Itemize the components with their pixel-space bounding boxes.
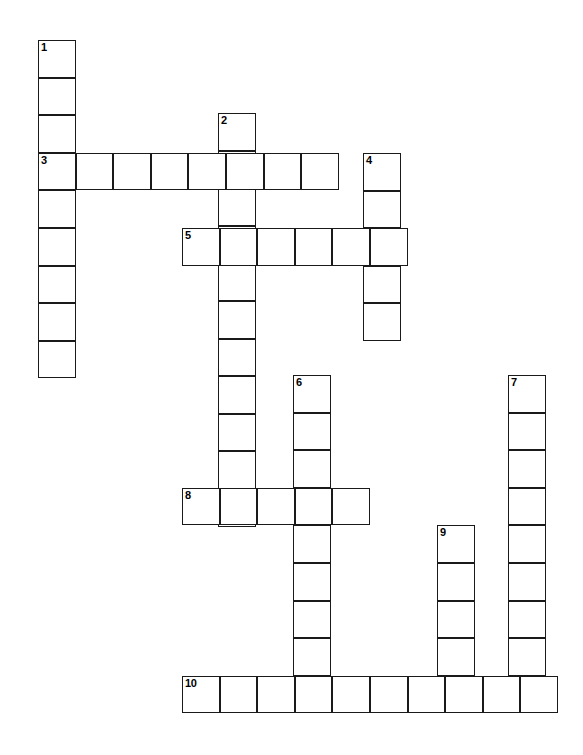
crossword-cell-start-2[interactable]: 2 — [218, 113, 256, 151]
crossword-cell-start-9[interactable]: 9 — [437, 525, 475, 563]
crossword-cell[interactable] — [218, 188, 256, 226]
crossword-cell-start-4[interactable]: 4 — [363, 153, 401, 191]
crossword-cell[interactable] — [76, 153, 114, 191]
crossword-cell-start-10[interactable]: 10 — [182, 676, 220, 714]
crossword-cell[interactable] — [293, 638, 331, 676]
crossword-cell[interactable] — [295, 676, 333, 714]
clue-number-10: 10 — [185, 677, 197, 689]
crossword-cell[interactable] — [218, 376, 256, 414]
crossword-cell[interactable] — [508, 450, 546, 488]
crossword-cell[interactable] — [370, 228, 408, 266]
crossword-cell-start-1[interactable]: 1 — [38, 40, 76, 78]
crossword-cell[interactable] — [445, 676, 483, 714]
crossword-cell[interactable] — [151, 153, 189, 191]
crossword-cell[interactable] — [437, 638, 475, 676]
crossword-cell[interactable] — [220, 488, 258, 526]
crossword-cell[interactable] — [38, 266, 76, 304]
crossword-cell[interactable] — [332, 676, 370, 714]
crossword-cell[interactable] — [293, 525, 331, 563]
crossword-cell[interactable] — [38, 303, 76, 341]
crossword-cell[interactable] — [38, 190, 76, 228]
crossword-cell[interactable] — [408, 676, 446, 714]
crossword-cell[interactable] — [520, 676, 558, 714]
crossword-cell[interactable] — [508, 525, 546, 563]
crossword-cell[interactable] — [293, 563, 331, 601]
crossword-cell[interactable] — [293, 450, 331, 488]
crossword-cell[interactable] — [226, 153, 264, 191]
crossword-cell[interactable] — [218, 301, 256, 339]
crossword-grid: 13245678910 — [0, 0, 583, 755]
crossword-cell[interactable] — [508, 601, 546, 639]
crossword-cell[interactable] — [38, 78, 76, 116]
crossword-cell[interactable] — [483, 676, 521, 714]
crossword-cell[interactable] — [508, 488, 546, 526]
clue-number-3: 3 — [41, 154, 47, 166]
crossword-cell[interactable] — [363, 303, 401, 341]
clue-number-2: 2 — [221, 114, 227, 126]
clue-number-1: 1 — [41, 41, 47, 53]
crossword-cell[interactable] — [257, 676, 295, 714]
crossword-cell[interactable] — [257, 228, 295, 266]
crossword-cell[interactable] — [264, 153, 302, 191]
crossword-cell[interactable] — [293, 413, 331, 451]
crossword-cell[interactable] — [113, 153, 151, 191]
crossword-cell[interactable] — [508, 638, 546, 676]
crossword-cell-start-5[interactable]: 5 — [182, 228, 220, 266]
crossword-cell[interactable] — [437, 601, 475, 639]
crossword-cell[interactable] — [437, 563, 475, 601]
crossword-cell[interactable] — [363, 191, 401, 229]
clue-number-8: 8 — [185, 489, 191, 501]
crossword-cell[interactable] — [295, 488, 333, 526]
crossword-cell[interactable] — [38, 115, 76, 153]
clue-number-6: 6 — [296, 376, 302, 388]
crossword-cell[interactable] — [257, 488, 295, 526]
crossword-cell-start-6[interactable]: 6 — [293, 375, 331, 413]
crossword-cell-start-3[interactable]: 3 — [38, 153, 76, 191]
crossword-cell[interactable] — [218, 414, 256, 452]
crossword-cell[interactable] — [508, 563, 546, 601]
crossword-cell[interactable] — [508, 413, 546, 451]
crossword-cell[interactable] — [188, 153, 226, 191]
crossword-cell[interactable] — [363, 266, 401, 304]
crossword-cell[interactable] — [295, 228, 333, 266]
crossword-cell[interactable] — [293, 601, 331, 639]
clue-number-4: 4 — [366, 154, 372, 166]
crossword-cell[interactable] — [218, 339, 256, 377]
crossword-cell-start-8[interactable]: 8 — [182, 488, 220, 526]
clue-number-7: 7 — [511, 376, 517, 388]
crossword-cell[interactable] — [301, 153, 339, 191]
crossword-cell[interactable] — [220, 676, 258, 714]
crossword-cell[interactable] — [332, 488, 370, 526]
clue-number-9: 9 — [440, 526, 446, 538]
crossword-cell-start-7[interactable]: 7 — [508, 375, 546, 413]
crossword-cell[interactable] — [38, 341, 76, 379]
crossword-cell[interactable] — [218, 263, 256, 301]
crossword-cell[interactable] — [38, 228, 76, 266]
crossword-cell[interactable] — [218, 451, 256, 489]
crossword-cell[interactable] — [220, 228, 258, 266]
crossword-cell[interactable] — [332, 228, 370, 266]
clue-number-5: 5 — [185, 229, 191, 241]
crossword-cell[interactable] — [370, 676, 408, 714]
